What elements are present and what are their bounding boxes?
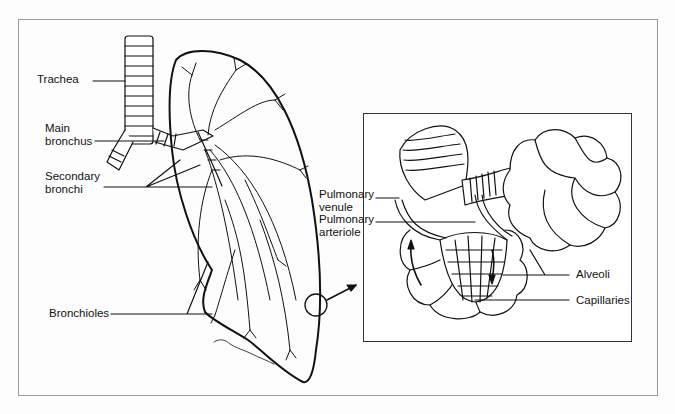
bronchioles-leader	[111, 262, 212, 314]
label-secondary-bronchi: Secondary bronchi	[45, 170, 100, 196]
label-bronchioles: Bronchioles	[49, 307, 109, 320]
label-pulmonary-arteriole: Pulmonary arteriole	[319, 213, 374, 239]
trachea-illustration	[107, 36, 213, 170]
label-main-bronchus: Main bronchus	[45, 122, 92, 148]
detail-circle	[305, 294, 327, 316]
label-capillaries: Capillaries	[576, 294, 630, 307]
magnify-arrow-icon	[327, 285, 356, 300]
signature-scribble	[214, 340, 274, 364]
label-pulmonary-venule: Pulmonary venule	[319, 188, 374, 214]
lung-outline	[169, 51, 320, 382]
bronchial-tree	[182, 58, 308, 360]
label-alveoli: Alveoli	[576, 268, 610, 281]
label-trachea: Trachea	[37, 73, 79, 86]
